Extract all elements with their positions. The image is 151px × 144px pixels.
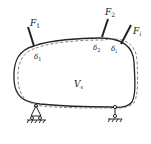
force-arrow-f1	[28, 27, 34, 46]
force-label-fi: Fi	[132, 26, 141, 37]
elastic-body-diagram: F1 F2 Fi δ1 δ2 δi Vs	[0, 0, 151, 144]
displacement-label-d2: δ2	[93, 44, 100, 53]
displacement-label-di: δi	[111, 45, 117, 54]
displacement-label-d1: δ1	[34, 53, 41, 62]
force-label-f2: F2	[104, 7, 115, 18]
force-arrow-f2	[102, 19, 108, 37]
force-label-f1: F1	[29, 18, 40, 29]
pin-support	[27, 104, 46, 123]
deformed-outline	[18, 39, 138, 108]
volume-label: Vs	[74, 79, 84, 90]
